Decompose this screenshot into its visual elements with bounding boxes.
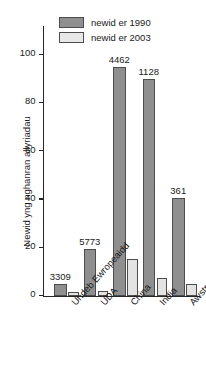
bar-value-label: 361 [170, 185, 186, 196]
y-axis-tick-label: 20 [25, 240, 36, 251]
bar-value-label: 1128 [139, 66, 159, 77]
x-axis-line [43, 296, 200, 297]
bar-value-label: 4462 [109, 54, 130, 65]
plot-area: 020406080100 3309577344621128361 Undeb E… [43, 26, 200, 296]
y-axis-tick-label: 80 [25, 95, 36, 106]
bar-1990 [172, 198, 185, 296]
y-axis-tick: 40 [39, 198, 44, 199]
y-axis-tick: 80 [39, 102, 44, 103]
y-axis-tick: 100 [39, 54, 44, 55]
y-axis-line [43, 26, 44, 296]
y-axis-tick-label: 60 [25, 144, 36, 155]
y-axis-tick: 0 [39, 295, 44, 296]
bar-value-label: 5773 [79, 236, 100, 247]
bar-1990 [143, 79, 156, 296]
y-axis-tick-label: 0 [30, 288, 35, 299]
y-axis-tick-label: 100 [20, 47, 36, 58]
y-axis-tick: 20 [39, 247, 44, 248]
bar-value-label: 3309 [50, 271, 71, 282]
y-axis-tick: 60 [39, 150, 44, 151]
bar-chart-figure: Newid yng nghanran allyriadau newid er 1… [0, 0, 206, 376]
bar-1990 [54, 284, 67, 296]
y-axis-tick-label: 40 [25, 192, 36, 203]
